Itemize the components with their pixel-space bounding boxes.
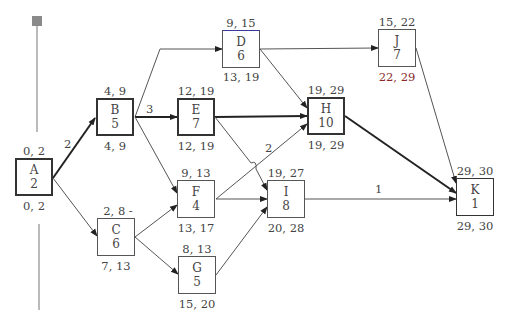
node-a-duration: 2 [30, 177, 38, 191]
node-g-late-times: 15, 20 [179, 297, 216, 311]
network-diagram: 2 3 2 1 0, 2 A 2 0, 2 4, 9 B 5 4, 9 2, 8… [0, 0, 508, 322]
edge-label-b-e: 3 [146, 102, 153, 116]
edge-e-h [215, 116, 307, 117]
node-a-early-times: 0, 2 [23, 144, 45, 158]
node-k[interactable]: K 1 [456, 178, 494, 216]
edge-c-f [135, 205, 177, 237]
node-d[interactable]: D 6 [222, 30, 260, 68]
node-c-duration: 6 [112, 237, 120, 251]
node-k-late-times: 29, 30 [457, 219, 494, 233]
node-a[interactable]: A 2 [15, 158, 53, 196]
edge-j-k [416, 48, 456, 183]
edge-c-g [135, 237, 178, 274]
node-a-id: A [30, 163, 39, 177]
node-b-id: B [111, 103, 120, 117]
node-h-duration: 10 [318, 116, 333, 130]
node-e-duration: 7 [192, 117, 200, 131]
node-j-duration: 7 [393, 48, 401, 62]
node-f-id: F [192, 185, 200, 199]
node-i-late-times: 20, 28 [268, 221, 305, 235]
node-j[interactable]: J 7 [378, 29, 416, 67]
node-f-late-times: 13, 17 [178, 221, 215, 235]
node-c-late-times: 7, 13 [101, 259, 130, 273]
node-j-early-times: 15, 22 [379, 15, 416, 29]
node-f-early-times: 9, 13 [181, 166, 210, 180]
node-g-early-times: 8, 13 [182, 242, 211, 256]
node-d-early-times: 9, 15 [226, 16, 255, 30]
edge-label-i-k: 1 [375, 182, 382, 196]
edge-b-f [135, 117, 177, 193]
node-e-id: E [192, 103, 201, 117]
node-a-late-times: 0, 2 [23, 199, 45, 213]
node-d-late-times: 13, 19 [223, 70, 260, 84]
node-c-id: C [111, 223, 120, 237]
node-g-duration: 5 [193, 275, 201, 289]
node-b[interactable]: B 5 [96, 98, 134, 136]
edge-d-h [260, 49, 307, 108]
node-b-duration: 5 [111, 117, 119, 131]
node-e-late-times: 12, 19 [178, 139, 215, 153]
node-b-late-times: 4, 9 [104, 139, 126, 153]
node-k-id: K [471, 183, 480, 197]
node-e[interactable]: E 7 [177, 98, 215, 136]
node-j-late-times: 22, 29 [379, 70, 416, 84]
node-i-duration: 8 [282, 199, 290, 213]
node-d-id: D [236, 35, 246, 49]
node-g[interactable]: G 5 [178, 256, 216, 294]
node-k-early-times: 29, 30 [457, 164, 494, 178]
node-b-early-times: 4, 9 [104, 84, 126, 98]
node-i-id: I [284, 185, 289, 199]
node-k-duration: 1 [471, 197, 479, 211]
node-e-early-times: 12, 19 [178, 84, 215, 98]
node-i-early-times: 19, 27 [268, 166, 305, 180]
node-h-early-times: 19, 29 [308, 83, 345, 97]
edge-label-a-b: 2 [64, 137, 71, 151]
node-h-late-times: 19, 29 [308, 138, 345, 152]
edge-a-c [53, 178, 97, 236]
edge-d-j [260, 48, 378, 49]
node-h-id: H [321, 102, 331, 116]
scale-marker-icon [32, 16, 42, 26]
edge-e-i [215, 117, 267, 190]
node-j-id: J [395, 34, 400, 48]
edge-label-f-h: 2 [265, 141, 272, 155]
node-f[interactable]: F 4 [177, 180, 215, 218]
node-c-early-times: 2, 8 - [103, 204, 133, 218]
node-g-id: G [192, 261, 202, 275]
node-h[interactable]: H 10 [307, 97, 345, 135]
edge-g-i [216, 207, 267, 275]
node-i[interactable]: I 8 [267, 180, 305, 218]
node-d-duration: 6 [237, 49, 245, 63]
node-c[interactable]: C 6 [97, 218, 135, 256]
edge-a-b [53, 118, 95, 178]
node-f-duration: 4 [192, 199, 200, 213]
